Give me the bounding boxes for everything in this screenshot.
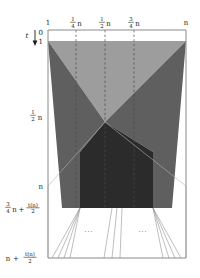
y-tick-tq-lead-suffix: n xyxy=(12,206,17,214)
y-tick-tq-tail-denominator: 2 xyxy=(31,208,34,214)
x-tick-label-1: 1 xyxy=(46,19,50,27)
fan-ellipsis-right: ... xyxy=(138,226,147,233)
y-tick-tq-lead-numerator: 3 xyxy=(6,201,10,207)
x-tick-threequarter-numerator: 3 xyxy=(129,16,133,22)
diagram-canvas: ... ... 1 1 4 n 1 2 n 3 4 n n xyxy=(0,0,200,278)
x-tick-label-n: n xyxy=(184,19,189,27)
y-tick-label-1: 1 xyxy=(39,38,43,46)
x-tick-quarter-denominator: 4 xyxy=(71,23,75,29)
y-tick-halfn-suffix: n xyxy=(38,114,43,122)
y-tick-tq-tail-numerator: t(n) xyxy=(28,202,38,208)
y-tick-tq-operator: + xyxy=(19,206,25,214)
shaded-regions xyxy=(48,41,186,208)
x-tick-half-suffix: n xyxy=(106,20,111,28)
y-tick-np-tail-numerator: t(n) xyxy=(25,251,35,257)
time-axis-symbol: t xyxy=(26,32,29,40)
y-tick-tq-lead-denominator: 4 xyxy=(6,208,10,214)
y-tick-np-operator: + xyxy=(13,255,19,263)
x-tick-half-numerator: 1 xyxy=(100,16,103,22)
x-tick-quarter-numerator: 1 xyxy=(71,16,74,22)
y-tick-label-0: 0 xyxy=(39,29,43,37)
y-tick-halfn-denominator: 2 xyxy=(31,116,34,122)
y-tick-np-tail-denominator: 2 xyxy=(28,258,31,264)
y-tick-np-lead-suffix: n xyxy=(6,255,11,263)
fan-ellipsis-left: ... xyxy=(84,226,93,233)
y-tick-label-n: n xyxy=(38,183,43,191)
x-tick-quarter-suffix: n xyxy=(77,20,82,28)
x-tick-threequarter-denominator: 4 xyxy=(129,23,133,29)
y-tick-halfn-numerator: 1 xyxy=(31,109,34,115)
x-tick-threequarter-suffix: n xyxy=(135,20,140,28)
figure-container: ... ... 1 1 4 n 1 2 n 3 4 n n xyxy=(0,0,200,278)
x-tick-half-denominator: 2 xyxy=(100,23,103,29)
